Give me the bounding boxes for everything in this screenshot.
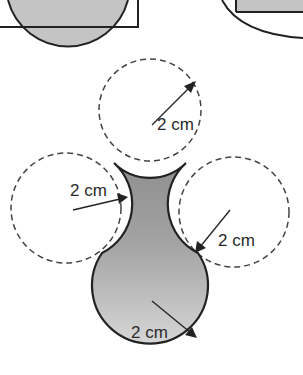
top-radius-label: 2 cm (157, 115, 194, 134)
flask-shape (92, 163, 208, 344)
top-dashed-circle (99, 59, 201, 161)
bottom-radius-label: 2 cm (131, 323, 168, 342)
left-radius-label: 2 cm (70, 181, 107, 200)
right-radius-label: 2 cm (218, 231, 255, 250)
diagram-canvas: 2 cm 2 cm 2 cm 2 cm (0, 0, 303, 375)
top-right-partial-figure (222, 0, 303, 38)
top-left-partial-figure (0, 0, 138, 46)
left-dashed-circle (11, 153, 121, 263)
